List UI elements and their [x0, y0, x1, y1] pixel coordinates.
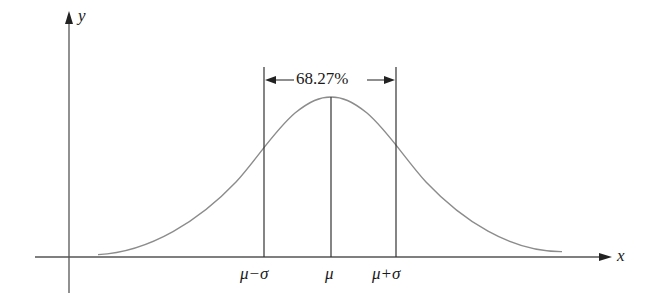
left-arrowhead-icon — [265, 76, 276, 84]
normal-curve — [98, 97, 562, 255]
mu-label: μ — [325, 264, 334, 284]
y-axis-arrow-icon — [65, 11, 73, 24]
interval-percentage-label: 68.27% — [294, 69, 350, 89]
normal-curve-diagram — [0, 0, 658, 295]
x-axis-label: x — [617, 246, 625, 266]
x-axis-arrow-icon — [599, 253, 612, 261]
mu-plus-sigma-label: μ+σ — [372, 264, 400, 284]
y-axis-label: y — [78, 6, 86, 26]
mu-minus-sigma-label: μ−σ — [240, 264, 268, 284]
right-arrowhead-icon — [384, 76, 395, 84]
